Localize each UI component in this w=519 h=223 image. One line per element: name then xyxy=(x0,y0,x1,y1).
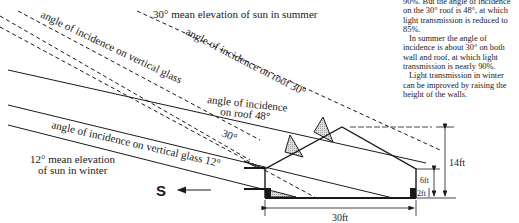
south-wall-and-roof xyxy=(265,127,416,198)
incidence-wedges xyxy=(244,117,333,197)
south-label: S xyxy=(156,182,166,199)
label-30ft: 30ft xyxy=(332,212,348,223)
label-14ft: 14ft xyxy=(449,157,465,168)
label-summer-roof: angle of incidence on roof 30° xyxy=(184,25,308,97)
glazing-markers xyxy=(244,168,265,189)
ray-winter-roof xyxy=(8,70,426,163)
label-2ft: 2ft xyxy=(417,189,427,198)
label-summer-elevation: 30° mean elevation of sun in summer xyxy=(153,8,318,20)
foundation-block-north xyxy=(410,188,416,198)
greenhouse-sun-angle-diagram: S 30° mean elevation of sun in summer an… xyxy=(0,0,519,223)
greenhouse-outline xyxy=(265,127,416,198)
label-6ft: 6ft xyxy=(420,176,430,185)
foundation-block-south xyxy=(265,188,271,198)
label-angle-30: 30° xyxy=(220,127,239,144)
label-winter-elevation-line2: of sun in winter xyxy=(38,164,108,176)
